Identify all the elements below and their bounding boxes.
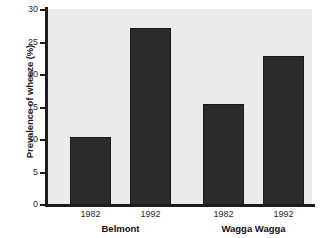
y-axis-tick-label: 25 [16,38,38,47]
y-axis-tick-label: 10 [16,135,38,144]
bar [130,28,171,205]
y-axis-tick [40,172,45,174]
y-axis-tick-label: 15 [16,103,38,112]
x-axis-tick-label: 1982 [65,209,117,219]
y-axis-tick [40,204,45,206]
y-axis-line [45,7,48,207]
x-axis-tick-label: 1992 [258,209,310,219]
bar-chart-figure: Prevalence of wheeze (%) 302520151050 19… [0,0,331,238]
group-label: Belmont [61,223,181,234]
y-axis-tick [40,107,45,109]
y-axis-tick [40,42,45,44]
y-axis-tick-label: 5 [16,168,38,177]
y-axis-tick [40,139,45,141]
y-axis-tick [40,74,45,76]
bar [263,56,304,206]
x-axis-tick-label: 1992 [125,209,177,219]
y-axis-tick [40,9,45,11]
y-axis-tick-label: 0 [16,200,38,209]
bar [70,137,111,205]
y-axis-tick-label: 20 [16,70,38,79]
bar [203,104,244,205]
y-axis-tick-label: 30 [16,5,38,14]
x-axis-tick-label: 1982 [198,209,250,219]
group-label: Wagga Wagga [194,223,314,234]
